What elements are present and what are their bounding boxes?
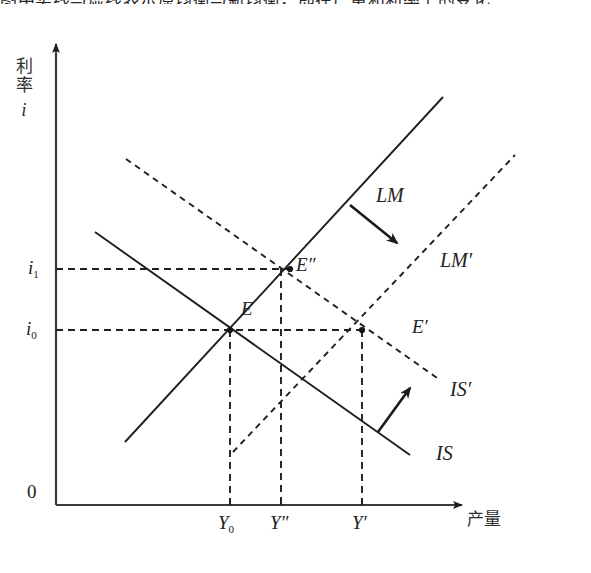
x-axis-title: 产量 [467, 511, 501, 528]
y-tick-label-i1: i1 [28, 258, 39, 277]
guide-lines-horizontal [56, 269, 362, 330]
point-marker-E-prime [359, 327, 365, 333]
x-tick-base-Ypp: Y [270, 512, 281, 533]
shift-arrow-group [350, 205, 410, 432]
y-tick-label-i0: i0 [26, 319, 37, 338]
x-tick-sub-Y0: 0 [229, 523, 235, 535]
origin-label: 0 [27, 482, 37, 501]
point-label-E-double-prime: E″ [296, 255, 316, 274]
curve-label-IS: IS [436, 443, 453, 463]
y-axis-title-char-1: 利 [14, 58, 34, 75]
curve-group [95, 97, 515, 455]
curve-label-LM-prime: LM′ [440, 250, 472, 270]
x-tick-base-Yp: Y [352, 512, 363, 533]
is-lm-diagram-canvas [0, 0, 591, 573]
point-label-E-prime: E′ [412, 317, 428, 336]
lm-shift-arrow [350, 205, 397, 243]
curve-label-IS-prime: IS′ [450, 379, 471, 399]
point-label-E: E [241, 299, 253, 318]
y-axis-symbol: i [14, 100, 34, 119]
point-marker-E [227, 327, 233, 333]
y-tick-sub-i0: 0 [31, 329, 37, 341]
x-tick-label-Y-double-prime: Y″ [270, 513, 289, 532]
is-lm-figure: 图中实线与虚线表示原均衡与新均衡，即在产量和利率上的变化 [0, 0, 591, 573]
is-shift-arrow [378, 388, 410, 432]
y-axis-title: 利 率 i [14, 58, 34, 119]
curve-label-LM: LM [376, 185, 404, 205]
y-tick-sub-i1: 1 [33, 268, 39, 280]
x-tick-prime-Yp: ′ [363, 512, 367, 533]
x-tick-label-Y-prime: Y′ [352, 513, 367, 532]
x-tick-prime-Ypp: ″ [281, 512, 289, 533]
curve-line-LM-prime [233, 155, 515, 452]
x-tick-base-Y0: Y [218, 512, 229, 533]
point-marker-E-double-prime [287, 266, 293, 272]
y-axis-title-char-2: 率 [14, 77, 34, 94]
x-tick-label-Y0: Y0 [218, 513, 234, 532]
